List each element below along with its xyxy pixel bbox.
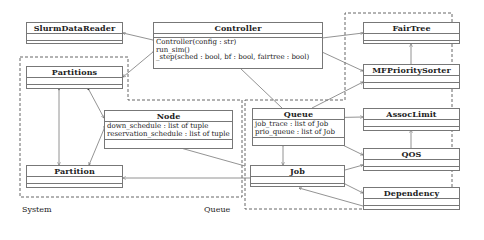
class-title: Job <box>251 166 344 177</box>
attributes-section <box>364 199 459 206</box>
methods-section <box>27 41 122 47</box>
class-node: Node down_schedule : list of tuple reser… <box>104 110 233 149</box>
class-title: MFPrioritySorter <box>364 65 459 76</box>
class-title: QOS <box>364 149 459 160</box>
attributes-section <box>27 78 122 85</box>
class-mf-priority-sorter: MFPrioritySorter <box>363 64 460 89</box>
attributes-section <box>364 160 459 167</box>
rel-controller-mfprioritysorter <box>322 52 363 71</box>
class-title: SlurmDataReader <box>27 23 122 34</box>
methods-section <box>27 85 122 91</box>
rel-dependency-job <box>299 188 363 206</box>
rel-job-dependency <box>345 184 363 193</box>
class-qos: QOS <box>363 148 460 171</box>
rel-node-partition <box>89 129 104 165</box>
class-title: AssocLimit <box>364 109 459 120</box>
rel-controller-queue <box>240 68 282 108</box>
attributes-section <box>364 120 459 127</box>
class-partition: Partition <box>26 165 123 188</box>
class-title: Partitions <box>27 67 122 78</box>
class-job: Job <box>250 165 345 187</box>
package-label-system: System <box>22 205 52 214</box>
methods-section <box>364 41 459 47</box>
class-title: FairTree <box>364 23 459 34</box>
methods-section <box>364 127 459 133</box>
rel-controller-slurmdatareader <box>123 33 153 40</box>
class-title: Partition <box>27 166 122 177</box>
methods-section <box>364 206 459 212</box>
attributes-section <box>27 177 122 184</box>
method: _step(sched : bool, bf : bool, fairtree … <box>156 54 320 62</box>
class-dependency: Dependency <box>363 187 460 210</box>
rel-partitions-node <box>89 90 104 118</box>
class-slurm-data-reader: SlurmDataReader <box>26 22 123 44</box>
class-title: Queue <box>253 109 344 120</box>
attributes-section <box>27 34 122 41</box>
attributes-section: job_trace : list of Job prio_queue : lis… <box>253 120 344 138</box>
class-partitions: Partitions <box>26 66 123 89</box>
class-assoc-limit: AssocLimit <box>363 108 460 131</box>
attribute: reservation_schedule : list of tuple <box>107 131 230 139</box>
methods-section: Controller(config : str) run_sim() _step… <box>154 38 322 63</box>
rel-queue-mfprioritysorter <box>312 82 363 108</box>
class-fair-tree: FairTree <box>363 22 460 44</box>
rel-controller-partitions <box>123 52 153 77</box>
attributes-section: down_schedule : list of tuple reservatio… <box>105 122 232 140</box>
attribute: prio_queue : list of Job <box>255 129 342 137</box>
methods-section <box>251 184 344 190</box>
attributes-section <box>251 177 344 184</box>
methods-section <box>105 140 232 146</box>
class-queue: Queue job_trace : list of Job prio_queue… <box>252 108 345 146</box>
class-title: Controller <box>154 23 322 34</box>
package-label-queue: Queue <box>204 205 230 214</box>
class-title: Node <box>105 111 232 122</box>
class-controller: Controller Controller(config : str) run_… <box>153 22 323 69</box>
attributes-section <box>364 76 459 83</box>
methods-section <box>364 83 459 89</box>
methods-section <box>27 184 122 190</box>
methods-section <box>253 138 344 144</box>
rel-job-qos <box>345 165 363 170</box>
methods-section <box>364 167 459 173</box>
rel-controller-fairtree <box>322 33 363 38</box>
attributes-section <box>364 34 459 41</box>
class-title: Dependency <box>364 188 459 199</box>
